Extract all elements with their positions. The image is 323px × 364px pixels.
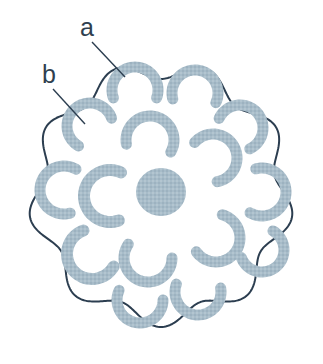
diagram-canvas: a b [0,0,323,364]
central-nucleus [136,168,186,216]
label-a: a [80,13,94,41]
leader-line-a [92,42,125,77]
label-b: b [42,60,56,88]
figure-container: a b [0,0,323,364]
